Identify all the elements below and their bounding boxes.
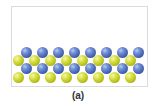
blue-atom-icon [133,63,144,74]
yellow-atom-icon [13,72,24,83]
yellow-atom-icon [45,72,56,83]
yellow-atom-icon [125,72,136,83]
yellow-atom-icon [109,72,120,83]
yellow-atom-icon [93,72,104,83]
yellow-atom-icon [61,72,72,83]
yellow-atom-icon [29,72,40,83]
figure-caption: (a) [0,90,156,101]
yellow-atom-icon [77,72,88,83]
